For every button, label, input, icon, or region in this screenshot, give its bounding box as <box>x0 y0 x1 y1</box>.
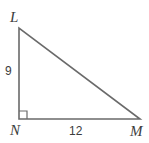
side-length-label-ln: 9 <box>5 65 12 77</box>
right-angle-marker-icon <box>19 111 27 119</box>
geometry-figure: L N M 9 12 <box>0 0 149 143</box>
triangle-shape <box>19 28 140 119</box>
side-length-label-nm: 12 <box>69 125 82 137</box>
vertex-label-n: N <box>10 123 20 138</box>
vertex-label-m: M <box>130 124 143 139</box>
triangle-diagram <box>0 0 149 143</box>
vertex-label-l: L <box>10 10 18 25</box>
